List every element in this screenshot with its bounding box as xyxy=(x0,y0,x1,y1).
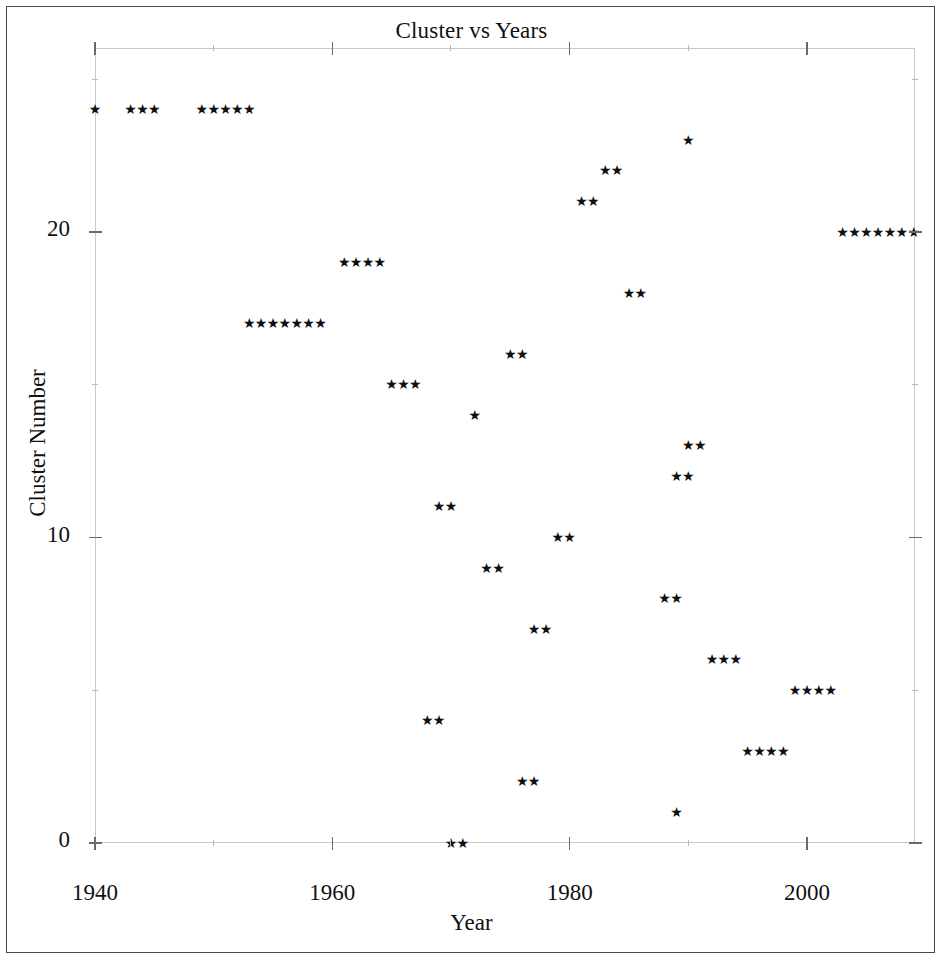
scatter-point: ★ xyxy=(148,103,161,116)
scatter-point: ★ xyxy=(824,684,837,697)
scatter-point: ★ xyxy=(670,806,683,819)
scatter-point: ★ xyxy=(682,470,695,483)
y-axis-tick xyxy=(89,537,102,538)
x-axis-tick-label: 1940 xyxy=(35,880,155,906)
scatter-point: ★ xyxy=(444,500,457,513)
scatter-point: ★ xyxy=(563,531,576,544)
scatter-point: ★ xyxy=(89,103,102,116)
scatter-point: ★ xyxy=(587,195,600,208)
scatter-point: ★ xyxy=(634,287,647,300)
x-axis-tick xyxy=(806,837,807,850)
x-axis-minor-tick xyxy=(213,840,214,846)
scatter-point: ★ xyxy=(468,409,481,422)
x-axis-minor-tick xyxy=(450,840,451,846)
plot-area: ★★★★★★★★★★★★★★★★★★★★★★★★★★★★★★★★★★★★★★★★… xyxy=(95,48,915,843)
scatter-point: ★ xyxy=(611,164,624,177)
scatter-point: ★ xyxy=(729,653,742,666)
y-axis-tick-label: 0 xyxy=(0,827,70,853)
x-axis-tick-top xyxy=(806,42,807,55)
y-axis-minor-tick-right xyxy=(912,79,918,80)
scatter-point: ★ xyxy=(516,348,529,361)
scatter-point: ★ xyxy=(314,317,327,330)
scatter-point: ★ xyxy=(777,745,790,758)
x-axis-tick-label: 2000 xyxy=(747,880,867,906)
y-axis-minor-tick-right xyxy=(912,384,918,385)
x-axis-tick-label: 1980 xyxy=(510,880,630,906)
x-axis-minor-tick-top xyxy=(688,45,689,51)
scatter-point: ★ xyxy=(670,592,683,605)
scatter-point: ★ xyxy=(409,378,422,391)
y-axis-tick xyxy=(89,842,102,843)
x-axis-minor-tick-top xyxy=(213,45,214,51)
figure-page: Cluster vs Years ★★★★★★★★★★★★★★★★★★★★★★★… xyxy=(0,0,943,961)
y-axis-minor-tick xyxy=(92,384,98,385)
y-axis-minor-tick-right xyxy=(912,690,918,691)
y-axis-label: Cluster Number xyxy=(25,343,51,543)
x-axis-tick-label: 1960 xyxy=(272,880,392,906)
scatter-point: ★ xyxy=(433,714,446,727)
scatter-point: ★ xyxy=(682,134,695,147)
y-axis-tick-right xyxy=(909,231,922,232)
x-axis-minor-tick xyxy=(688,840,689,846)
x-axis-tick-top xyxy=(569,42,570,55)
y-axis-tick-label: 20 xyxy=(0,216,70,242)
scatter-point: ★ xyxy=(539,623,552,636)
x-axis-minor-tick-top xyxy=(450,45,451,51)
x-axis-tick xyxy=(332,837,333,850)
scatter-point: ★ xyxy=(373,256,386,269)
scatter-point: ★ xyxy=(243,103,256,116)
scatter-point: ★ xyxy=(694,439,707,452)
y-axis-tick xyxy=(89,231,102,232)
scatter-point: ★ xyxy=(456,837,469,850)
scatter-point: ★ xyxy=(528,775,541,788)
x-axis-tick xyxy=(569,837,570,850)
y-axis-tick-right xyxy=(909,537,922,538)
x-axis-tick-top xyxy=(94,42,95,55)
y-axis-minor-tick xyxy=(92,79,98,80)
chart-title: Cluster vs Years xyxy=(0,18,943,44)
y-axis-tick-right xyxy=(909,842,922,843)
x-axis-label: Year xyxy=(0,910,943,936)
y-axis-tick-label: 10 xyxy=(0,522,70,548)
scatter-point: ★ xyxy=(492,562,505,575)
y-axis-minor-tick xyxy=(92,690,98,691)
x-axis-tick-top xyxy=(332,42,333,55)
